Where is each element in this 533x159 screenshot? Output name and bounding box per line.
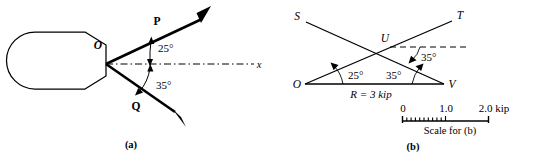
angle-35-arrowhead-upper	[147, 64, 153, 72]
panel-a-angle-25-label: 25°	[158, 42, 173, 54]
hook-bracket-body	[6, 32, 106, 89]
panel-b-angle-u-label: 35°	[421, 51, 436, 63]
panel-b-vertex-v-label: V	[448, 78, 457, 90]
panel-a-diagram: O P Q x 25° 35° (a)	[0, 0, 266, 159]
panel-a-origin-label: O	[94, 39, 102, 51]
angle-v-35-arrowhead	[416, 64, 424, 72]
panel-a-vector-p-label: P	[153, 15, 160, 27]
panel-a-axis-label: x	[256, 59, 262, 70]
panel-b-diagram: S T U O V 35° 25° 35° R = 3 kip	[266, 0, 533, 159]
panel-b-vertex-u-label: U	[381, 32, 390, 44]
panel-b-ray-t-label: T	[457, 9, 465, 21]
vector-q-arrowhead	[172, 109, 186, 128]
scale-title: Scale for (b)	[424, 125, 477, 137]
panel-b-angle-o-label: 25°	[348, 69, 363, 81]
panel-a-angle-35-label: 35°	[156, 79, 171, 91]
scale-bar-minor-ticks	[407, 116, 446, 121]
angle-o-25-arrowhead	[331, 63, 339, 71]
angle-25-arrowhead-upper	[148, 37, 154, 45]
scale-tick-label-0: 0	[400, 102, 406, 114]
panel-a-vector-q-label: Q	[132, 100, 141, 112]
scale-tick-label-1: 1.0	[439, 102, 453, 114]
panel-b-resultant-label: R = 3 kip	[349, 88, 392, 100]
panel-a-caption: (a)	[125, 139, 138, 151]
force-diagram-figure: O P Q x 25° 35° (a) S T U O V	[0, 0, 533, 159]
panel-b-caption: (b)	[407, 141, 420, 153]
panel-b-ray-s-label: S	[294, 10, 300, 22]
scale-tick-label-2: 2.0 kip	[479, 102, 510, 114]
panel-b-vertex-o-label: O	[293, 78, 302, 90]
panel-b-angle-v-label: 35°	[386, 69, 401, 81]
